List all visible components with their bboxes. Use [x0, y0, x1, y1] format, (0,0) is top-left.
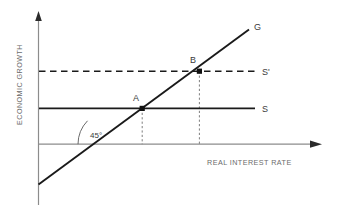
equilibrium-points-group [140, 69, 202, 111]
growth-line-label: G [254, 22, 261, 32]
x-axis-title: REAL INTEREST RATE [207, 158, 292, 167]
x-axis-arrow-icon [310, 141, 322, 148]
y-axis-arrow-icon [35, 11, 42, 21]
point-a-marker [140, 106, 145, 111]
diagram-canvas: ECONOMIC GROWTH REAL INTEREST RATE 45° G… [0, 0, 345, 218]
point-a-label: A [133, 93, 139, 103]
angle-arc-group [78, 121, 88, 144]
economics-diagram-figure: ECONOMIC GROWTH REAL INTEREST RATE 45° G… [0, 0, 345, 218]
angle-annotation-label: 45° [90, 131, 102, 140]
forty-five-degree-arc-icon [78, 121, 88, 144]
point-b-label: B [190, 55, 196, 65]
savings-shifted-line-label: S' [262, 67, 270, 77]
point-b-marker [197, 69, 202, 74]
y-axis-title: ECONOMIC GROWTH [15, 44, 24, 125]
savings-line-label: S [262, 104, 268, 114]
